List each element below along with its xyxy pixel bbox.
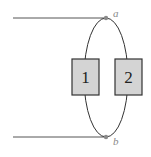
element-2: 2 bbox=[115, 59, 142, 95]
circuit-diagram: 1 2 a b bbox=[0, 0, 151, 157]
element-1-label: 1 bbox=[81, 68, 90, 87]
element-2-label: 2 bbox=[124, 68, 133, 87]
element-1: 1 bbox=[72, 59, 99, 95]
node-a-label: a bbox=[113, 7, 119, 19]
node-b-label: b bbox=[113, 135, 119, 147]
node-a-dot bbox=[104, 16, 108, 20]
node-b-dot bbox=[104, 135, 108, 139]
